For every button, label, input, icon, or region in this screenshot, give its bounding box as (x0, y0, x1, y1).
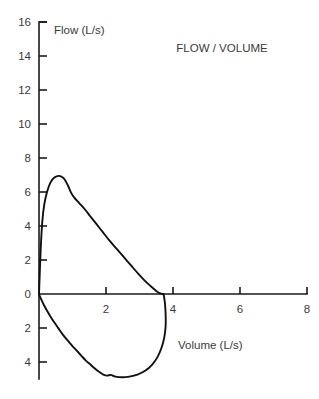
y-tick-label: 16 (18, 16, 31, 28)
y-tick-label: 4 (25, 356, 32, 368)
x-tick-label: 2 (103, 303, 109, 315)
y-tick-label: 10 (18, 118, 31, 130)
y-tick-label: 8 (25, 152, 31, 164)
y-axis-title: Flow (L/s) (54, 24, 105, 36)
y-tick-label: 2 (25, 322, 31, 334)
flow-volume-loop-plot: 1614121086420242468 FLOW / VOLUME Flow (… (0, 0, 319, 399)
y-tick-label: 4 (25, 220, 32, 232)
y-tick-label: 12 (18, 84, 31, 96)
x-tick-label: 6 (237, 303, 243, 315)
x-tick-label: 8 (304, 303, 310, 315)
y-tick-label: 2 (25, 254, 31, 266)
x-tick-label: 4 (170, 303, 177, 315)
expiratory-limb-curve (39, 176, 163, 294)
y-tick-label: 14 (18, 50, 31, 62)
tick-labels-group: 1614121086420242468 (18, 16, 310, 368)
y-tick-label: 6 (25, 186, 31, 198)
curve-series-group (39, 176, 166, 377)
flow-volume-chart-figure: 1614121086420242468 FLOW / VOLUME Flow (… (0, 0, 319, 399)
chart-title: FLOW / VOLUME (176, 42, 268, 54)
x-axis-title: Volume (L/s) (178, 339, 243, 351)
axes-group (39, 22, 307, 379)
y-tick-label: 0 (25, 288, 31, 300)
